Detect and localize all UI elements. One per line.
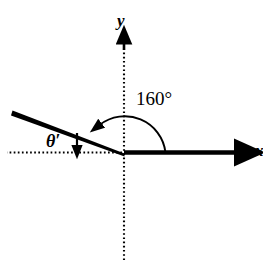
y-axis-label: y	[117, 12, 125, 29]
angle-diagram-canvas	[0, 0, 263, 260]
angle-arc-160	[100, 116, 166, 152]
angle-diagram-figure: y x θ′ 160°	[0, 0, 263, 260]
terminal-side-ray	[11, 111, 125, 157]
reference-angle-label: θ′	[46, 132, 60, 150]
angle-measure-label: 160°	[136, 89, 172, 108]
x-axis-label: x	[255, 142, 263, 159]
